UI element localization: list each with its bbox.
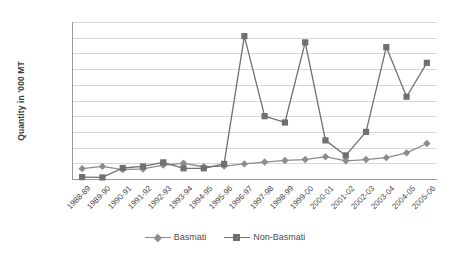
data-point-basmati xyxy=(403,149,410,156)
legend-item-basmati[interactable]: Basmati xyxy=(145,232,207,242)
data-point-basmati xyxy=(362,156,369,163)
data-point-non-basmati xyxy=(99,174,105,180)
y-axis-title: Quantity in '000 MT xyxy=(16,26,26,176)
data-point-non-basmati xyxy=(120,165,126,171)
legend-item-non-basmati[interactable]: Non-Basmati xyxy=(224,232,305,242)
data-point-non-basmati xyxy=(241,33,247,39)
data-point-basmati xyxy=(302,156,309,163)
data-point-non-basmati xyxy=(403,94,409,100)
data-point-basmati xyxy=(261,158,268,165)
legend-label: Basmati xyxy=(174,232,207,242)
data-point-non-basmati xyxy=(221,161,227,167)
data-point-non-basmati xyxy=(180,165,186,171)
data-point-non-basmati xyxy=(383,44,389,50)
data-point-basmati xyxy=(383,154,390,161)
series-line-basmati xyxy=(82,144,427,170)
legend-marker-icon xyxy=(145,232,171,242)
plot-area xyxy=(72,22,437,179)
legend-label: Non-Basmati xyxy=(253,232,305,242)
data-point-basmati xyxy=(423,140,430,147)
data-point-basmati xyxy=(78,165,85,172)
data-point-non-basmati xyxy=(322,137,328,143)
data-point-non-basmati xyxy=(262,113,268,119)
data-point-non-basmati xyxy=(140,163,146,169)
line-chart: Quantity in '000 MT 05001000150020002500… xyxy=(0,0,450,273)
data-point-non-basmati xyxy=(302,39,308,45)
data-point-non-basmati xyxy=(282,119,288,125)
data-point-non-basmati xyxy=(201,165,207,171)
data-point-non-basmati xyxy=(363,129,369,135)
chart-legend: BasmatiNon-Basmati xyxy=(0,232,450,242)
data-point-non-basmati xyxy=(424,60,430,66)
data-point-basmati xyxy=(99,163,106,170)
data-point-basmati xyxy=(322,153,329,160)
series-layer xyxy=(72,22,437,179)
data-point-non-basmati xyxy=(343,152,349,158)
data-point-non-basmati xyxy=(160,159,166,165)
legend-marker-icon xyxy=(224,232,250,242)
data-point-basmati xyxy=(241,160,248,167)
x-axis-line xyxy=(72,179,437,180)
data-point-non-basmati xyxy=(79,174,85,180)
data-point-basmati xyxy=(281,157,288,164)
series-line-non-basmati xyxy=(82,36,427,177)
